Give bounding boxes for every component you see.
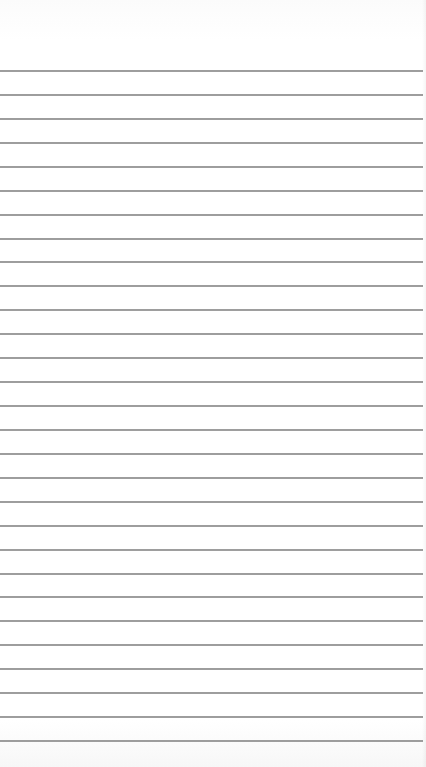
ruled-line	[0, 285, 423, 287]
ruled-line	[0, 644, 423, 646]
ruled-line	[0, 573, 423, 575]
ruled-line	[0, 453, 423, 455]
ruled-line	[0, 238, 423, 240]
ruled-line	[0, 118, 423, 120]
ruled-line	[0, 716, 423, 718]
ruled-line	[0, 70, 423, 72]
ruled-line	[0, 740, 423, 742]
ruled-line	[0, 94, 423, 96]
ruled-line	[0, 692, 423, 694]
ruled-line	[0, 261, 423, 263]
ruled-line	[0, 166, 423, 168]
ruled-line	[0, 501, 423, 503]
ruled-line	[0, 668, 423, 670]
ruled-line	[0, 214, 423, 216]
ruled-line	[0, 405, 423, 407]
ruled-line	[0, 596, 423, 598]
lined-paper-page	[0, 0, 426, 767]
ruled-line	[0, 309, 423, 311]
ruled-line	[0, 357, 423, 359]
ruled-line	[0, 620, 423, 622]
ruled-line	[0, 190, 423, 192]
ruled-line	[0, 429, 423, 431]
ruled-line	[0, 333, 423, 335]
ruled-line	[0, 477, 423, 479]
ruled-line	[0, 381, 423, 383]
ruled-line	[0, 525, 423, 527]
ruled-line	[0, 142, 423, 144]
ruled-line	[0, 549, 423, 551]
